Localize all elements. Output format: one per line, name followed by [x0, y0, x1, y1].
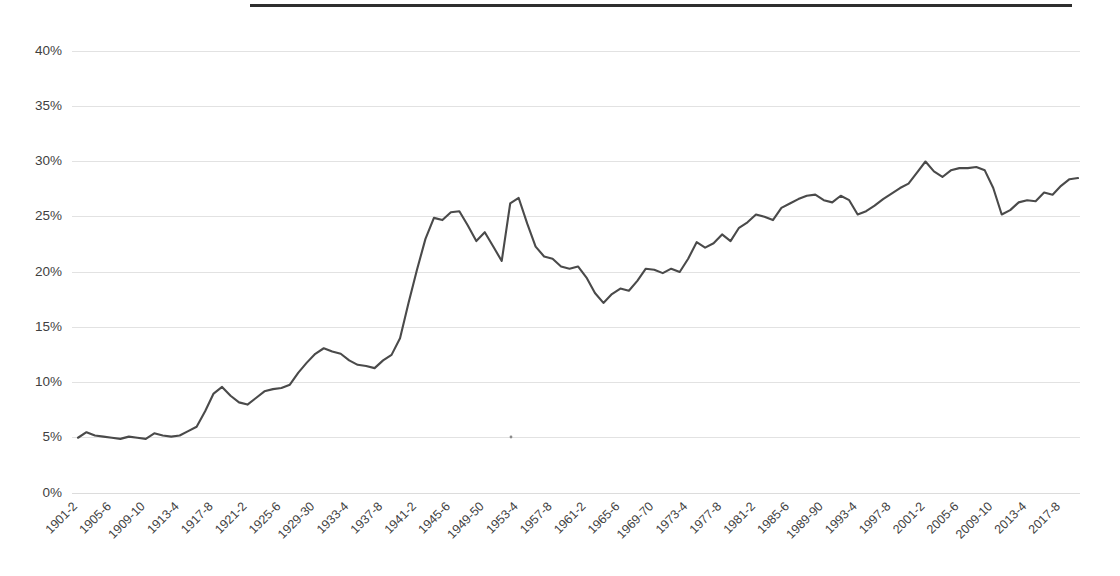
x-tick-label: 1937-8 [348, 499, 385, 536]
x-tick-label: 1997-8 [856, 499, 893, 536]
x-tick-label: 1957-8 [517, 499, 554, 536]
x-tick-label: 1981-2 [721, 499, 758, 536]
gridlines-group [72, 51, 1080, 493]
x-tick-label: 1949-50 [445, 499, 487, 541]
y-tick-label: 35% [35, 98, 62, 113]
x-tick-label: 1913-4 [144, 499, 181, 536]
y-tick-label: 25% [35, 208, 62, 223]
x-tick-label: 1909-10 [106, 499, 148, 541]
x-tick-label: 1973-4 [653, 499, 690, 536]
x-tick-label: 1953-4 [483, 499, 520, 536]
y-tick-label: 5% [42, 429, 62, 444]
x-tick-label: 1901-2 [43, 499, 80, 536]
x-tick-label: 2013-4 [992, 499, 1029, 536]
y-tick-label: 20% [35, 264, 62, 279]
y-axis-tick-labels: 0%5%10%15%20%25%30%35%40% [35, 43, 62, 500]
x-tick-label: 1921-2 [212, 499, 249, 536]
chart-figure: 0%5%10%15%20%25%30%35%40% 1901-21905-619… [0, 0, 1120, 576]
data-series-group [78, 162, 1078, 439]
data-line-series [78, 162, 1078, 439]
x-tick-label: 1977-8 [687, 499, 724, 536]
x-tick-label: 1989-90 [784, 499, 826, 541]
y-tick-label: 0% [42, 485, 62, 500]
x-tick-label: 2009-10 [953, 499, 995, 541]
y-tick-label: 30% [35, 153, 62, 168]
x-tick-label: 2001-2 [890, 499, 927, 536]
x-tick-label: 1969-70 [614, 499, 656, 541]
y-tick-label: 15% [35, 319, 62, 334]
y-tick-label: 10% [35, 374, 62, 389]
x-tick-label: 2017-8 [1026, 499, 1063, 536]
x-tick-label: 1961-2 [551, 499, 588, 536]
y-tick-label: 40% [35, 43, 62, 58]
plot-area: 0%5%10%15%20%25%30%35%40% 1901-21905-619… [0, 0, 1120, 576]
x-tick-label: 1929-30 [275, 499, 317, 541]
stray-mark [510, 436, 513, 439]
x-tick-label: 1993-4 [822, 499, 859, 536]
x-tick-label: 1933-4 [314, 499, 351, 536]
line-chart-svg: 0%5%10%15%20%25%30%35%40% 1901-21905-619… [0, 0, 1120, 576]
x-tick-label: 1917-8 [178, 499, 215, 536]
x-axis-tick-labels: 1901-21905-61909-101913-41917-81921-2192… [43, 499, 1064, 541]
x-tick-label: 1941-2 [382, 499, 419, 536]
